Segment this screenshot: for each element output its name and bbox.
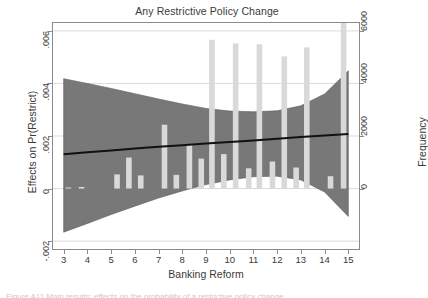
- frequency-bar: [270, 161, 276, 188]
- y-axis-label-right: Frequency: [416, 62, 428, 222]
- y-axis-label-left: Effects on Pr(Restrict): [26, 62, 38, 222]
- frequency-bar: [281, 56, 287, 188]
- frequency-bar: [79, 187, 85, 189]
- frequency-bar: [221, 154, 227, 188]
- x-tick-label: 12: [272, 254, 283, 265]
- figure-caption: Figure A11 Main results: effects on the …: [0, 292, 420, 298]
- y-tick-label-right: 2000: [359, 116, 369, 136]
- frequency-bar: [66, 188, 72, 189]
- x-tick-label: 8: [180, 254, 185, 265]
- plot-svg: [53, 23, 359, 249]
- x-tick-label: 11: [249, 254, 259, 265]
- frequency-bar: [198, 159, 204, 189]
- y-tickmark-right: [360, 136, 364, 137]
- y-tick-label-left: .006: [41, 31, 51, 49]
- y-tick-label-left: 0: [41, 189, 51, 194]
- x-tick-label: 4: [85, 254, 90, 265]
- y-tick-label-left: .002: [41, 136, 51, 154]
- x-tick-label: 7: [156, 254, 161, 265]
- x-tick-label: 6: [132, 254, 137, 265]
- x-axis-label: Banking Reform: [52, 268, 360, 280]
- x-tick-label: 10: [224, 254, 235, 265]
- frequency-bar: [233, 44, 239, 189]
- frequency-bar: [126, 158, 132, 189]
- chart-title: Any Restrictive Policy Change: [0, 5, 414, 17]
- frequency-bar: [293, 168, 299, 189]
- x-tick-label: 5: [108, 254, 113, 265]
- y-tick-label-left: .004: [41, 83, 51, 101]
- frequency-bar: [187, 144, 193, 188]
- frequency-bar: [114, 174, 120, 188]
- frequency-bar: [174, 175, 180, 189]
- y-tick-label-right: 0: [359, 184, 369, 189]
- frequency-bar: [304, 47, 310, 188]
- frequency-bar: [246, 168, 252, 188]
- y-tick-label-right: 6000: [359, 11, 369, 31]
- x-tick-label: 15: [343, 254, 354, 265]
- frequency-bar: [138, 175, 144, 188]
- x-tick-label: 9: [203, 254, 208, 265]
- y-tickmark-right: [360, 83, 364, 84]
- frequency-bar: [209, 40, 215, 189]
- frequency-bar: [162, 125, 168, 189]
- frequency-bar: [341, 23, 347, 189]
- plot-area: [52, 22, 360, 250]
- x-tick-label: 13: [296, 254, 307, 265]
- x-tick-label: 3: [61, 254, 66, 265]
- y-tickmark-right: [360, 31, 364, 32]
- frequency-bar: [257, 44, 263, 188]
- y-tick-label-right: 4000: [359, 63, 369, 83]
- x-tick-label: 14: [319, 254, 330, 265]
- frequency-bar: [328, 176, 334, 188]
- y-tick-label-left: -.002: [41, 241, 51, 262]
